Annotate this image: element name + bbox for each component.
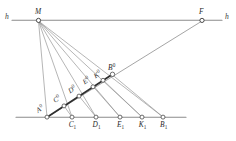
label-sub-K1: 1 <box>144 124 147 130</box>
label-group-E0: E 0 <box>79 74 91 87</box>
point-node-B1 <box>161 115 165 119</box>
point-node-C1 <box>70 115 74 119</box>
point-node-D0 <box>77 94 81 98</box>
point-node-E1 <box>118 115 122 119</box>
label-group-C0: C 0 <box>51 92 63 105</box>
point-node-A0 <box>45 115 49 119</box>
label-point-F: F <box>198 7 204 16</box>
label-horizon-left: h <box>5 12 9 21</box>
label-group-D1: D 1 <box>92 120 101 130</box>
label-group-K1: K 1 <box>138 120 147 130</box>
label-group-B0: B 0 <box>108 62 116 72</box>
point-node-E0 <box>91 85 95 89</box>
point-node-B0 <box>110 72 114 76</box>
label-sup-B0: 0 <box>113 62 116 68</box>
connector-E0-E1 <box>93 87 120 118</box>
point-node-K0 <box>101 78 105 82</box>
point-node-M <box>36 18 40 22</box>
figure-canvas: h h M F A 0 C 0 D 0 E 0 K 0 B 0 <box>0 0 236 141</box>
label-group-E1: E 1 <box>116 120 124 130</box>
label-sub-D1: 1 <box>98 124 101 130</box>
point-node-K1 <box>140 115 144 119</box>
label-sub-B1: 1 <box>165 124 168 130</box>
point-node-D1 <box>94 115 98 119</box>
label-sub-C1: 1 <box>74 124 77 130</box>
label-group-B1: B 1 <box>160 120 168 130</box>
point-node-F <box>200 18 204 22</box>
label-sub-E1: 1 <box>121 124 124 130</box>
label-group-A0: A 0 <box>33 102 46 115</box>
label-horizon-right: h <box>225 12 229 21</box>
label-point-M: M <box>34 7 42 16</box>
label-group-C1: C 1 <box>69 120 77 130</box>
connector-D0-D1 <box>79 96 96 117</box>
geometry-figure: h h M F A 0 C 0 D 0 E 0 K 0 B 0 <box>0 0 236 141</box>
label-group-D0: D 0 <box>65 82 78 95</box>
point-node-C0 <box>62 104 66 108</box>
